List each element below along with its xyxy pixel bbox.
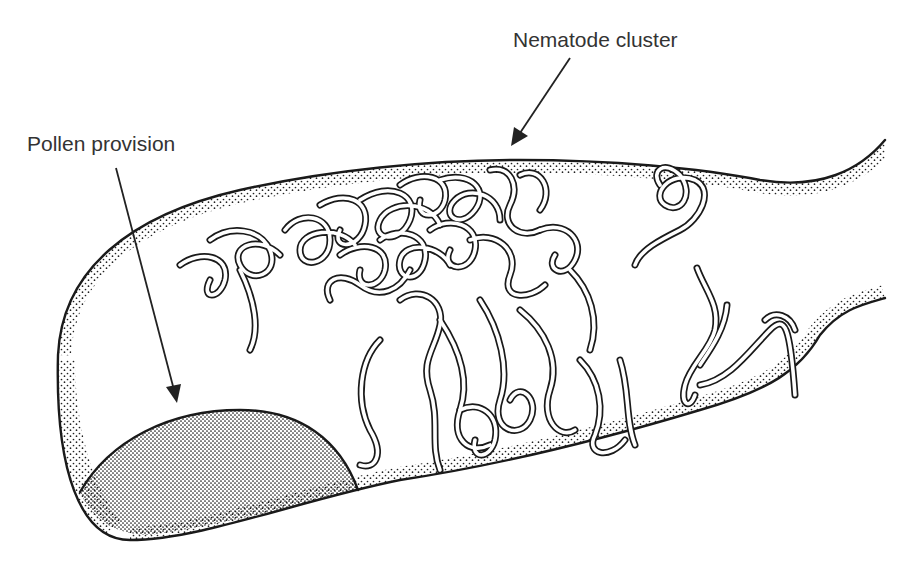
nematode-cluster-label: Nematode cluster bbox=[513, 28, 678, 52]
brood-cell-diagram bbox=[0, 0, 910, 565]
pollen-arrow bbox=[116, 168, 181, 403]
nematode-arrow bbox=[511, 58, 570, 146]
pollen-provision-label: Pollen provision bbox=[27, 132, 175, 156]
illustration-canvas: Nematode cluster Pollen provision bbox=[0, 0, 910, 565]
pollen-provision bbox=[80, 410, 358, 535]
